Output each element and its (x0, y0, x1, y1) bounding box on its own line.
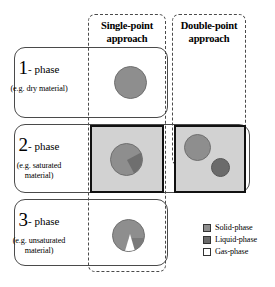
row-number-two-phase: 2 (19, 134, 29, 155)
legend-label-liquid-phase: Liquid-phase (215, 235, 257, 244)
legend-item-gas-phase: Gas-phase (203, 246, 273, 257)
column-header-double-point-line2: approach (189, 33, 230, 44)
column-header-double-point: Double-point approach (173, 20, 245, 45)
legend-item-solid-phase: Solid-phase (203, 222, 273, 233)
row-phase-text-two-phase: - phase (28, 140, 59, 152)
liquid-phase-region (127, 149, 144, 176)
legend-label-solid-phase: Solid-phase (215, 223, 253, 232)
row-example-two-phase-line2: material) (25, 171, 54, 180)
column-header-single-point-line1: Single-point (101, 20, 153, 31)
row-example-one-phase: (e.g. dry material) (0, 84, 78, 94)
column-header-single-point-line2: approach (107, 33, 148, 44)
square-swatch-liquid-icon (203, 236, 211, 244)
gas-phase-region (125, 234, 135, 251)
row-example-three-phase-line1: (e.g. unsaturated (13, 236, 66, 245)
phase-circle-two-phase-single-point (110, 143, 143, 176)
row-phase-text-one-phase: - phase (28, 63, 59, 75)
legend-item-liquid-phase: Liquid-phase (203, 234, 273, 245)
legend: Solid-phase Liquid-phase Gas-phase (203, 222, 273, 258)
row-label-one-phase: 1- phase (e.g. dry material) (0, 58, 78, 94)
row-label-three-phase: 3- phase (e.g. unsaturated material) (0, 210, 78, 256)
phase-circle-three-phase-single-point (112, 219, 145, 252)
row-example-two-phase-line1: (e.g. saturated (17, 161, 62, 170)
phase-circle-two-phase-double-point-solid (184, 134, 211, 161)
column-header-single-point: Single-point approach (89, 20, 165, 45)
square-swatch-solid-icon (203, 224, 211, 232)
legend-label-gas-phase: Gas-phase (215, 247, 248, 256)
phase-circle-two-phase-double-point-liquid (211, 158, 230, 177)
row-phase-text-three-phase: - phase (28, 215, 59, 227)
row-number-one-phase: 1 (19, 57, 29, 78)
row-label-two-phase: 2- phase (e.g. saturated material) (0, 135, 78, 181)
cell-two-phase-double-point (174, 125, 246, 193)
row-example-two-phase: (e.g. saturated material) (0, 161, 78, 181)
column-header-double-point-line1: Double-point (181, 20, 238, 31)
square-swatch-gas-icon (203, 248, 211, 256)
phase-circle-one-phase-single-point (114, 66, 147, 99)
row-example-three-phase: (e.g. unsaturated material) (0, 236, 78, 256)
row-number-three-phase: 3 (19, 209, 29, 230)
figure-canvas: Single-point approach Double-point appro… (0, 0, 275, 287)
row-example-three-phase-line2: material) (25, 246, 54, 255)
